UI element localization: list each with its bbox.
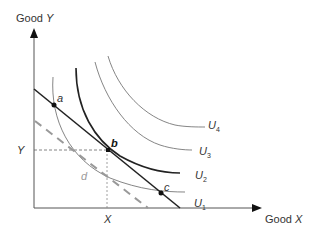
- curve-u4-letter: U: [208, 119, 216, 131]
- curve-u2-sub: 2: [203, 176, 207, 183]
- curve-u2-letter: U: [195, 169, 203, 181]
- curve-u1-sub: 1: [202, 204, 206, 211]
- y-axis-arrow-icon: [30, 28, 38, 38]
- curve-u4-label: U4: [208, 120, 220, 133]
- curve-u3-sub: 3: [207, 152, 211, 159]
- dashed-budget-line: [35, 121, 148, 208]
- indifference-curve-u4: [108, 56, 205, 127]
- curve-u4-sub: 4: [216, 126, 220, 133]
- indifference-curve-u2: [76, 68, 180, 173]
- x-axis-arrow-icon: [252, 204, 262, 212]
- indifference-curve-u3: [95, 62, 192, 150]
- y-tick-label: Y: [17, 145, 24, 156]
- point-a-marker: [52, 103, 57, 108]
- curve-u3-label: U3: [199, 146, 211, 159]
- x-axis-label-var: X: [295, 213, 302, 225]
- curve-u1-letter: U: [194, 197, 202, 209]
- y-axis-label: Good Y: [16, 13, 53, 24]
- x-axis-label-prefix: Good: [265, 213, 295, 225]
- curve-u2-label: U2: [195, 170, 207, 183]
- y-axis-label-var: Y: [46, 12, 53, 24]
- curve-u1-label: U1: [194, 198, 206, 211]
- point-b-label: b: [111, 138, 118, 149]
- point-a-label: a: [57, 93, 63, 104]
- point-c-marker: [159, 191, 164, 196]
- point-d-label: d: [81, 171, 87, 182]
- indifference-curve-diagram: [0, 0, 315, 236]
- y-axis-label-prefix: Good: [16, 12, 46, 24]
- x-axis-label: Good X: [265, 214, 302, 225]
- indifference-curve-u1: [53, 77, 185, 192]
- point-c-label: c: [164, 182, 170, 193]
- curve-u3-letter: U: [199, 145, 207, 157]
- point-b-marker: [106, 148, 110, 152]
- x-tick-label: X: [104, 214, 111, 225]
